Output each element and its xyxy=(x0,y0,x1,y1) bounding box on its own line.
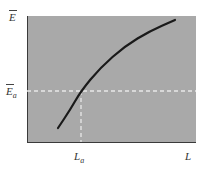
chart xyxy=(0,0,209,169)
plot-area xyxy=(27,16,196,143)
x-axis-label-text: L xyxy=(185,150,191,162)
x-marker-sub: a xyxy=(80,156,84,165)
x-axis-label: L xyxy=(185,151,191,162)
y-axis-label: E xyxy=(9,12,16,23)
y-marker-sub: a xyxy=(13,91,17,100)
y-axis-label-text: E xyxy=(9,11,16,23)
y-marker-label: Ea xyxy=(6,86,17,100)
y-marker-text: E xyxy=(6,85,13,97)
x-marker-label: La xyxy=(74,151,84,165)
